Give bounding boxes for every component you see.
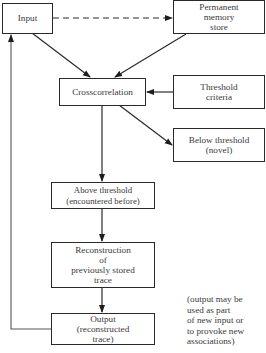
reconstruction-box: Reconstruction of previously stored trac…	[51, 242, 155, 288]
output-label: Output (reconstructed trace)	[77, 314, 130, 345]
reconstruction-label: Reconstruction of previously stored trac…	[71, 245, 135, 286]
output-box: Output (reconstructed trace)	[51, 313, 155, 345]
above-threshold-box: Above threshold (encountered before)	[51, 182, 155, 209]
edge-output-feedback-to-input	[11, 35, 51, 329]
crosscorrelation-box: Crosscorrelation	[59, 78, 146, 106]
edge-memory-to-crosscorrelation	[115, 34, 186, 77]
edge-input-to-crosscorrelation	[32, 33, 90, 77]
below-threshold-label: Below threshold (novel)	[189, 135, 249, 155]
permanent-memory-label: Permanent memory store	[199, 2, 238, 32]
above-threshold-label: Above threshold (encountered before)	[66, 185, 140, 205]
below-threshold-box: Below threshold (novel)	[173, 128, 265, 162]
output-annotation: (output may be used as part of new input…	[187, 294, 244, 347]
threshold-criteria-label: Threshold criteria	[200, 82, 237, 102]
crosscorrelation-label: Crosscorrelation	[72, 87, 133, 97]
permanent-memory-box: Permanent memory store	[173, 0, 265, 34]
input-box: Input	[2, 3, 53, 34]
edge-crosscorrelation-to-below	[119, 105, 172, 145]
input-label: Input	[18, 13, 37, 23]
threshold-criteria-box: Threshold criteria	[173, 75, 265, 109]
